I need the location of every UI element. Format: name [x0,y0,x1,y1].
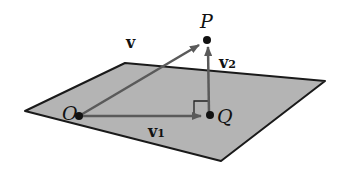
diagram-canvas [0,0,347,181]
label-O: O [62,104,78,123]
point-Q [206,111,214,119]
vector-v2 [208,47,209,115]
label-v2: v2 [219,55,236,71]
label-v: v [126,35,135,51]
label-v1: v1 [148,124,165,140]
label-Q: Q [217,107,233,126]
point-P [203,36,211,44]
projection-diagram: P O Q v v2 v1 [0,0,347,181]
label-P: P [200,12,213,31]
